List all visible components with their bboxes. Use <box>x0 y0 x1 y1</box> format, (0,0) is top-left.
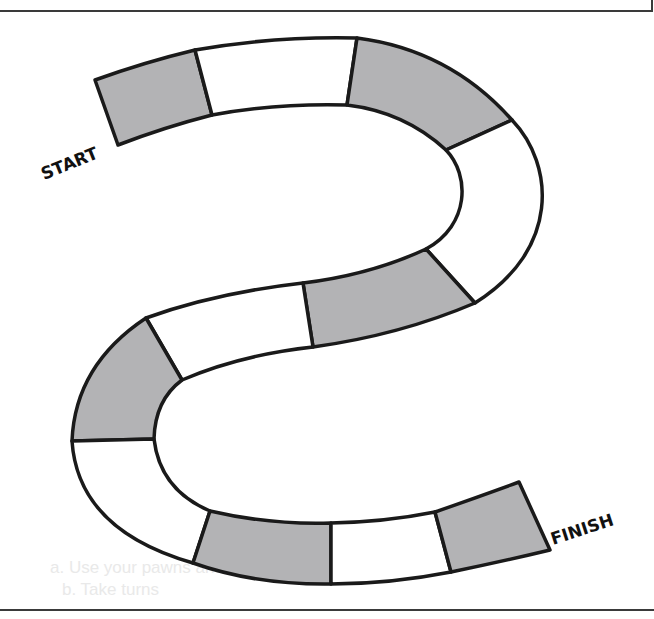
board-space-10[interactable] <box>331 512 451 584</box>
game-board: START FINISH <box>0 0 654 619</box>
board-space-11[interactable] <box>435 482 550 572</box>
page-frame-bottom <box>0 609 654 611</box>
board-space-1[interactable] <box>95 50 212 145</box>
board-space-9[interactable] <box>193 511 331 584</box>
start-label: START <box>38 143 101 184</box>
board-space-8[interactable] <box>72 439 210 563</box>
board-space-2[interactable] <box>195 38 357 115</box>
finish-label: FINISH <box>548 510 616 549</box>
